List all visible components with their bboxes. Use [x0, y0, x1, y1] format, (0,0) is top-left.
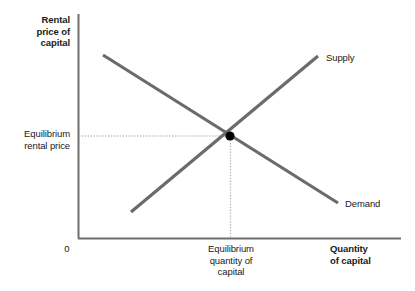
equilibrium-price-label-line-1: Equilibrium	[4, 128, 70, 140]
supply-curve[interactable]	[131, 56, 318, 212]
y-axis-title: Rental price of capital	[8, 14, 70, 49]
demand-curve-label: Demand	[345, 198, 380, 210]
equilibrium-quantity-label: Equilibrium quantity of capital	[176, 243, 286, 278]
equilibrium-quantity-label-line-2: quantity of	[176, 255, 286, 267]
x-axis-title-line-2: of capital	[330, 255, 410, 267]
supply-curve-label: Supply	[326, 52, 354, 64]
x-axis-title: Quantity of capital	[330, 243, 410, 266]
supply-demand-chart: Rental price of capital Quantity of capi…	[0, 0, 415, 291]
y-axis-title-line-2: price of	[8, 26, 70, 38]
equilibrium-point-marker[interactable]	[225, 131, 234, 140]
equilibrium-quantity-label-line-1: Equilibrium	[176, 243, 286, 255]
demand-curve[interactable]	[103, 55, 338, 203]
equilibrium-price-label-line-2: rental price	[4, 140, 70, 152]
x-axis-title-line-1: Quantity	[330, 243, 410, 255]
origin-label: 0	[60, 243, 74, 255]
y-axis-title-line-1: Rental	[8, 14, 70, 26]
equilibrium-quantity-label-line-3: capital	[176, 266, 286, 278]
y-axis-title-line-3: capital	[8, 37, 70, 49]
equilibrium-price-label: Equilibrium rental price	[4, 128, 70, 151]
